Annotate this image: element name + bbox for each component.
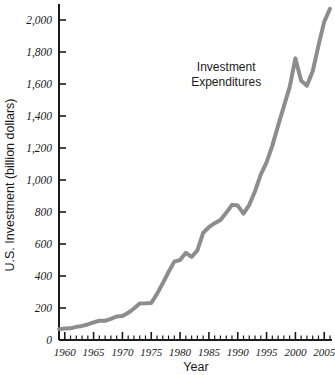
x-tick-label: 1960 <box>54 346 77 358</box>
y-axis-title: U.S. Investment (billion dollars) <box>3 99 17 272</box>
y-tick-label: 1,400 <box>26 110 52 123</box>
x-axis-ticks <box>59 332 330 340</box>
series-line <box>59 9 330 329</box>
y-tick-label: 1,600 <box>26 78 52 91</box>
x-axis-title: Year <box>183 360 208 374</box>
x-tick-label: 1980 <box>169 346 192 358</box>
chart-figure: 02004006008001,0001,2001,4001,6001,8002,… <box>0 0 335 375</box>
annotation-group: InvestmentExpenditures <box>191 60 261 89</box>
y-tick-label: 1,200 <box>26 142 52 155</box>
y-tick-label: 200 <box>35 302 53 314</box>
x-tick-label: 1990 <box>227 346 250 358</box>
x-tick-label: 2000 <box>284 346 307 358</box>
y-tick-label: 1,000 <box>26 174 52 187</box>
x-tick-label: 1985 <box>198 346 221 358</box>
y-tick-label: 2,000 <box>26 14 52 27</box>
x-tick-label: 1995 <box>256 346 279 358</box>
y-tick-label: 1,800 <box>26 46 52 59</box>
x-tick-label: 1965 <box>83 346 106 358</box>
line-chart: 02004006008001,0001,2001,4001,6001,8002,… <box>0 0 335 375</box>
y-tick-label: 600 <box>35 238 53 250</box>
y-axis-tick-labels: 02004006008001,0001,2001,4001,6001,8002,… <box>26 14 52 346</box>
axes <box>59 4 332 340</box>
x-tick-label: 1975 <box>140 346 163 358</box>
y-tick-label: 800 <box>35 206 53 218</box>
annotation-line-1: Investment <box>197 60 256 74</box>
y-axis-ticks <box>59 20 66 308</box>
y-tick-label: 400 <box>35 270 53 282</box>
data-series-group <box>59 9 330 329</box>
x-tick-label: 1970 <box>111 346 134 358</box>
annotation-line-2: Expenditures <box>191 75 261 89</box>
y-tick-label: 0 <box>46 334 52 346</box>
x-tick-label: 2005 <box>313 346 335 358</box>
x-axis-tick-labels: 1960196519701975198019851990199520002005 <box>54 346 335 358</box>
